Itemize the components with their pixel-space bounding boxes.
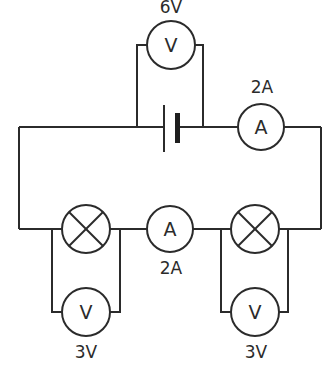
ammeter-main: A 2A bbox=[238, 77, 284, 150]
voltmeter-right-symbol: V bbox=[249, 301, 262, 323]
voltmeter-supply-reading: 6V bbox=[160, 0, 183, 17]
voltmeter-supply-symbol: V bbox=[165, 34, 178, 56]
ammeter-main-reading: 2A bbox=[251, 77, 274, 97]
voltmeter-right-reading: 3V bbox=[245, 342, 268, 362]
ammeter-main-symbol: A bbox=[255, 116, 268, 138]
ammeter-middle-reading: 2A bbox=[160, 258, 183, 278]
voltmeter-supply: V 6V bbox=[137, 0, 203, 127]
lamp-left bbox=[62, 205, 110, 253]
voltmeter-left-reading: 3V bbox=[75, 342, 98, 362]
battery-cell bbox=[164, 105, 180, 152]
ammeter-middle-symbol: A bbox=[164, 218, 177, 240]
ammeter-middle: A 2A bbox=[147, 206, 193, 278]
circuit-diagram: V 6V A 2A A 2A V 3V V 3V bbox=[0, 0, 334, 379]
voltmeter-left-symbol: V bbox=[80, 301, 93, 323]
battery-negative-plate bbox=[175, 113, 180, 143]
lamp-right bbox=[231, 205, 279, 253]
